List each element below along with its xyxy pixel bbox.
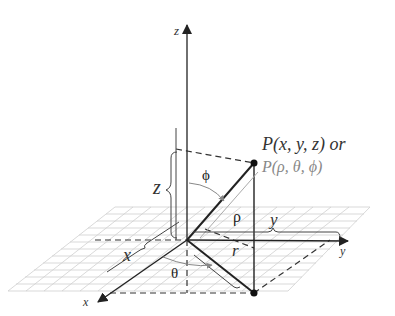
- z-axis-label: z: [173, 23, 179, 38]
- z-brace-label: z: [152, 176, 161, 198]
- phi-label: ϕ: [202, 167, 210, 183]
- z-brace: [166, 152, 177, 238]
- rho-line: [187, 163, 254, 240]
- theta-label: θ: [171, 265, 178, 281]
- rho-label: ρ: [233, 208, 241, 226]
- y-axis: [187, 240, 348, 241]
- y-brace-label: y: [268, 210, 278, 229]
- y-axis-label: y: [339, 244, 346, 258]
- xy-plane-grid: [8, 207, 370, 291]
- cartesian-point-label: P(x, y, z) or: [261, 134, 346, 155]
- r-label: r: [232, 241, 239, 260]
- point-foot: [251, 290, 258, 297]
- r-line: [187, 240, 254, 293]
- phi-arc: [189, 183, 224, 201]
- spherical-point-label: P(ρ, θ, ϕ): [261, 158, 322, 176]
- point-p: [251, 160, 258, 167]
- x-brace-label: x: [122, 245, 131, 265]
- spherical-coordinates-diagram: z x y z x y r ρ ϕ θ P(x, y, z) or P(ρ, θ…: [0, 0, 395, 316]
- x-axis-label: x: [82, 295, 89, 309]
